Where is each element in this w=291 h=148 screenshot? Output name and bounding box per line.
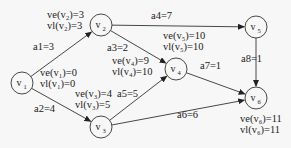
edge-label-a2: a2=4: [34, 103, 55, 114]
node-v6: v6: [245, 87, 267, 109]
aoe-diagram: v1v2v3v4v5v6 a1=3 a2=4 a3=2 a4=7 a5=5 a6…: [0, 0, 291, 148]
edge-label-a7: a7=1: [200, 60, 221, 71]
edge-label-a6: a6=6: [177, 109, 198, 120]
svg-text:v: v: [17, 77, 22, 88]
node-v4: v4: [165, 58, 187, 80]
v6-ve-label: ve(v₆)=11: [240, 113, 282, 124]
svg-text:2: 2: [102, 25, 105, 32]
svg-text:v: v: [251, 21, 256, 32]
v1-ve-label: ve(v₁)=0: [40, 67, 77, 78]
node-v1: v1: [11, 72, 33, 94]
v4-vl-label: vl(v₄)=10: [112, 66, 153, 77]
v2-vl-label: vl(v₂)=3: [47, 20, 82, 31]
node-v3: v3: [90, 116, 112, 138]
v3-vl-label: vl(v₃)=5: [75, 99, 110, 110]
svg-text:1: 1: [23, 83, 26, 90]
edge-v4-v6: [186, 73, 244, 94]
edge-label-a1: a1=3: [33, 41, 54, 52]
svg-text:3: 3: [102, 127, 105, 134]
v5-vl-label: vl(v₅)=10: [163, 41, 204, 52]
edge-label-a4: a4=7: [151, 10, 172, 21]
edge-v2-v5: [112, 25, 244, 27]
edge-label-a8: a8=1: [241, 53, 262, 64]
node-v5: v5: [245, 16, 267, 38]
v2-ve-label: ve(v₂)=3: [47, 9, 84, 20]
edge-label-a5: a5=5: [117, 88, 138, 99]
svg-text:v: v: [96, 19, 101, 30]
v1-vl-label: vl(v₁)=0: [40, 78, 75, 89]
v6-vl-label: vl(v₆)=11: [240, 124, 280, 135]
v3-ve-label: ve(v₃)=4: [75, 88, 112, 99]
v5-ve-label: ve(v₅)=10: [163, 30, 205, 41]
edge-label-a3: a3=2: [107, 42, 128, 53]
node-v2: v2: [90, 14, 112, 36]
svg-text:5: 5: [257, 27, 260, 34]
svg-text:v: v: [171, 63, 176, 74]
svg-text:v: v: [251, 92, 256, 103]
v4-ve-label: ve(v₄)=9: [112, 55, 149, 66]
svg-text:v: v: [96, 121, 101, 132]
